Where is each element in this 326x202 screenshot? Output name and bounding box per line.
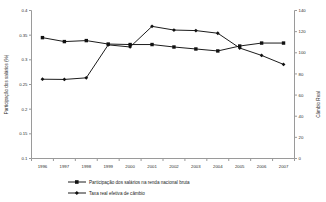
left-tick-label: 0.15 (19, 131, 28, 136)
chart-container: 0.10.150.20.250.30.350.4 Participação do… (0, 0, 326, 202)
data-point-square (260, 41, 263, 44)
left-axis: 0.10.150.20.250.30.350.4 Participação do… (4, 8, 32, 161)
data-point-square (282, 41, 285, 44)
right-tick-label: 0 (299, 156, 302, 161)
x-tick-label: 2001 (147, 164, 157, 169)
data-point-diamond (62, 78, 66, 82)
right-tick-label: 60 (299, 93, 304, 98)
right-tick-label: 120 (299, 29, 307, 34)
data-point-diamond (260, 54, 264, 58)
series-layer (41, 24, 286, 81)
left-axis-ticks: 0.10.150.20.250.30.350.4 (19, 8, 31, 161)
series-2 (41, 24, 286, 81)
legend-marker-square (75, 180, 79, 184)
right-tick-label: 20 (299, 135, 304, 140)
data-point-square (172, 45, 175, 48)
x-tick-label: 2002 (169, 164, 179, 169)
data-point-square (150, 43, 153, 46)
right-tick-label: 140 (299, 8, 307, 13)
x-tick-label: 2006 (257, 164, 267, 169)
data-point-square (216, 49, 219, 52)
right-tick-label: 80 (299, 72, 304, 77)
left-tick-label: 0.25 (19, 82, 28, 87)
right-axis: 020406080100120140 Câmbio Real (295, 8, 322, 161)
x-axis-ticks: 1996199719981999200020012002200320042005… (32, 159, 295, 169)
x-tick-label: 2004 (213, 164, 223, 169)
x-tick-label: 2007 (279, 164, 289, 169)
series-path (42, 38, 283, 51)
series-path (42, 26, 283, 79)
left-tick-label: 0.1 (22, 156, 29, 161)
legend-marker-diamond (75, 191, 79, 195)
data-point-square (41, 36, 44, 39)
chart-legend: Participação dos salários na renda nacio… (68, 180, 190, 196)
x-tick-label: 1996 (38, 164, 48, 169)
right-axis-title: Câmbio Real (316, 91, 321, 118)
x-tick-label: 1999 (103, 164, 113, 169)
legend-item-2: Taxa real efetiva de câmbio (68, 191, 145, 196)
x-axis: 1996199719981999200020012002200320042005… (32, 159, 295, 169)
series-1 (41, 36, 285, 53)
legend-label: Participação dos salários na renda nacio… (89, 180, 190, 185)
line-chart: 0.10.150.20.250.30.350.4 Participação do… (0, 0, 326, 202)
left-tick-label: 0.4 (22, 8, 29, 13)
right-tick-label: 100 (299, 50, 307, 55)
x-tick-label: 1997 (60, 164, 70, 169)
data-point-diamond (41, 77, 45, 81)
x-tick-label: 1998 (82, 164, 92, 169)
x-tick-label: 2003 (191, 164, 201, 169)
data-point-square (85, 39, 88, 42)
data-point-diamond (282, 63, 286, 67)
right-tick-label: 40 (299, 114, 304, 119)
x-tick-label: 2000 (125, 164, 135, 169)
left-tick-label: 0.3 (22, 57, 29, 62)
data-point-square (194, 47, 197, 50)
left-tick-label: 0.2 (22, 107, 29, 112)
legend-item-1: Participação dos salários na renda nacio… (68, 180, 190, 185)
data-point-square (63, 40, 66, 43)
x-tick-label: 2005 (235, 164, 245, 169)
data-point-diamond (172, 28, 176, 32)
legend-label: Taxa real efetiva de câmbio (89, 191, 145, 196)
right-axis-ticks: 020406080100120140 (295, 8, 307, 161)
data-point-diamond (194, 29, 198, 33)
left-axis-title: Participação dos salários (%) (4, 54, 9, 114)
left-tick-label: 0.35 (19, 33, 28, 38)
